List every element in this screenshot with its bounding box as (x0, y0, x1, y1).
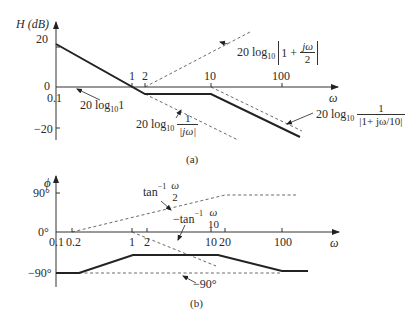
pole-term-label: 20 log10 1|1+ jω/10| (316, 103, 405, 127)
origin-phase-label: −90° (193, 278, 217, 290)
origin-pole-label: 20 log10 1|jω| (136, 113, 198, 137)
zero-asymptote-dashed (145, 32, 250, 87)
phase-x-tick-20: 20 (219, 236, 231, 248)
panel-b-caption: (b) (190, 297, 203, 309)
phase-x-tick-2: 2 (144, 236, 150, 248)
y-tick-20: 20 (36, 33, 48, 45)
phase-plot (56, 176, 339, 287)
const-term-label: 20 log101 (80, 99, 124, 116)
phase-x-tick-0.1: 0.1 (49, 236, 64, 248)
phase-total-curve (56, 255, 308, 273)
zero-term-label: 20 log10 1 + jω2 (237, 41, 318, 65)
x-tick-100: 100 (272, 70, 290, 82)
pole-phase-label: −tan−1 ω10 (173, 207, 221, 230)
panel-a-caption: (a) (186, 153, 198, 165)
phase-x-axis-label: ω (330, 237, 338, 249)
magnitude-y-axis-label: H (dB) (16, 18, 49, 30)
y-tick-neg20: −20 (34, 123, 53, 135)
phase-tick-90: 90° (33, 187, 50, 199)
phase-x-tick-0.2: 0.2 (66, 236, 81, 248)
x-tick-2: 2 (142, 70, 148, 82)
phase-tick-neg90: −90° (28, 267, 52, 279)
bode-diagram-art (0, 0, 416, 319)
phase-x-tick-100: 100 (274, 236, 292, 248)
phase-x-tick-10: 10 (205, 236, 217, 248)
zero-phase-label: tan−1 ω2 (143, 180, 181, 203)
pole-asymptote-dashed (211, 87, 302, 131)
phase-tick-0: 0° (38, 226, 49, 238)
x-tick-10: 10 (204, 70, 216, 82)
x-tick-1: 1 (129, 70, 135, 82)
phase-x-tick-1: 1 (129, 236, 135, 248)
x-tick-0.1: 0.1 (47, 92, 62, 104)
